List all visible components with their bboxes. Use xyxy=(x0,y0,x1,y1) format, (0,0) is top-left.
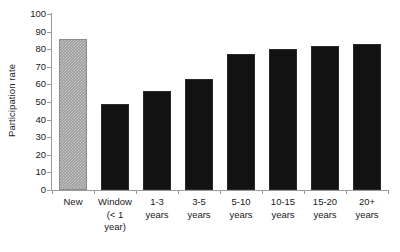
x-axis-tick-label: 10-15years xyxy=(262,196,304,221)
bar xyxy=(185,79,213,190)
y-axis-tick-mark xyxy=(47,172,51,173)
x-axis-tick-label: Window(< 1year) xyxy=(94,196,136,234)
x-axis-tick-label-line: years xyxy=(220,209,262,222)
y-axis-tick-label: 90 xyxy=(22,27,46,37)
x-axis-tick-label-line: years xyxy=(136,209,178,222)
x-axis-tick-mark xyxy=(346,190,347,194)
y-axis-tick-label: 60 xyxy=(22,80,46,90)
x-axis-tick-label-line: (< 1 xyxy=(94,209,136,222)
y-axis-title: Participation rate xyxy=(0,0,24,200)
x-axis-tick-mark xyxy=(304,190,305,194)
y-axis-tick-label: 0 xyxy=(22,185,46,195)
x-axis-tick-label-line: year) xyxy=(94,221,136,234)
x-axis-tick-mark xyxy=(52,190,53,194)
x-axis-tick-label: 20+years xyxy=(346,196,388,221)
x-axis-tick-label-line: 5-10 xyxy=(220,196,262,209)
y-axis-tick-label: 50 xyxy=(22,97,46,107)
y-axis-tick-mark xyxy=(47,120,51,121)
x-axis-tick-label-line: 15-20 xyxy=(304,196,346,209)
x-axis-tick-label-line: 20+ xyxy=(346,196,388,209)
x-axis-tick-label: 3-5years xyxy=(178,196,220,221)
plot-area xyxy=(52,14,388,190)
y-axis-tick-labels: 1009080706050403020100 xyxy=(22,14,46,190)
y-axis-tick-label: 40 xyxy=(22,115,46,125)
x-axis-tick-label-line: 1-3 xyxy=(136,196,178,209)
y-axis-tick-mark xyxy=(47,32,51,33)
x-axis-tick-label-line: years xyxy=(178,209,220,222)
y-axis-title-label: Participation rate xyxy=(7,63,18,136)
x-axis-tick-mark xyxy=(220,190,221,194)
x-axis-tick-labels: NewWindow(< 1year)1-3years3-5years5-10ye… xyxy=(52,196,388,250)
bar xyxy=(311,46,339,190)
x-axis-tick-label: New xyxy=(52,196,94,209)
x-axis-tick-mark xyxy=(262,190,263,194)
y-axis-tick-mark xyxy=(47,14,51,15)
x-axis-tick-mark xyxy=(178,190,179,194)
x-axis-tick-mark xyxy=(388,190,389,194)
x-axis-tick-label-line: Window xyxy=(94,196,136,209)
y-axis-tick-mark xyxy=(47,155,51,156)
x-axis-tick-label-line: 3-5 xyxy=(178,196,220,209)
y-axis-tick-mark xyxy=(47,67,51,68)
bar-chart: Participation rate 100908070605040302010… xyxy=(0,0,400,252)
y-axis-tick-label: 80 xyxy=(22,44,46,54)
bar xyxy=(227,54,255,190)
x-axis-tick-label-line: years xyxy=(262,209,304,222)
y-axis-tick-label: 100 xyxy=(22,9,46,19)
y-axis-tick-mark xyxy=(47,137,51,138)
y-axis-tick-label: 70 xyxy=(22,62,46,72)
bar xyxy=(101,104,129,190)
x-axis-tick-mark xyxy=(136,190,137,194)
y-axis-tick-mark xyxy=(47,84,51,85)
x-axis-tick-label-line: years xyxy=(346,209,388,222)
x-axis-tick-mark xyxy=(94,190,95,194)
bar xyxy=(143,91,171,190)
y-axis-tick-label: 30 xyxy=(22,132,46,142)
y-axis-tick-mark xyxy=(47,49,51,50)
bar xyxy=(353,44,381,190)
x-axis-tick-label-line: 10-15 xyxy=(262,196,304,209)
y-axis-tick-mark xyxy=(47,102,51,103)
x-axis-tick-label-line: New xyxy=(52,196,94,209)
y-axis-tick-label: 10 xyxy=(22,168,46,178)
y-axis-tick-mark xyxy=(47,190,51,191)
bar xyxy=(59,39,87,190)
x-axis-tick-label: 1-3years xyxy=(136,196,178,221)
x-axis-tick-label-line: years xyxy=(304,209,346,222)
x-axis-tick-label: 5-10years xyxy=(220,196,262,221)
y-axis-tick-label: 20 xyxy=(22,150,46,160)
bar xyxy=(269,49,297,190)
x-axis-tick-label: 15-20years xyxy=(304,196,346,221)
